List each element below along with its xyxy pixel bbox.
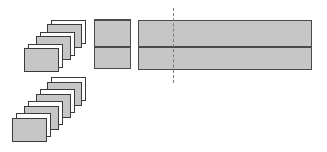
wide-block-divider xyxy=(139,46,311,48)
middle-block xyxy=(94,19,131,69)
dashed-marker-line xyxy=(173,8,174,83)
feature-map-card xyxy=(12,118,47,142)
wide-block xyxy=(138,20,312,70)
middle-block-divider xyxy=(95,46,130,48)
feature-map-card xyxy=(24,48,59,72)
diagram-canvas xyxy=(0,0,327,152)
